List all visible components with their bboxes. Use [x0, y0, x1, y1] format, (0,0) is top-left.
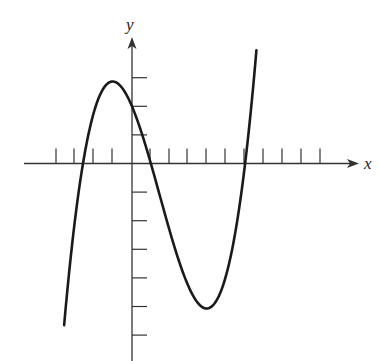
- cubic-function-graph: x y: [0, 0, 379, 361]
- x-axis-label: x: [363, 154, 372, 173]
- y-axis-label: y: [124, 15, 134, 34]
- cubic-curve: [64, 50, 256, 325]
- x-axis-ticks: [56, 149, 320, 164]
- y-axis-ticks: [132, 78, 147, 335]
